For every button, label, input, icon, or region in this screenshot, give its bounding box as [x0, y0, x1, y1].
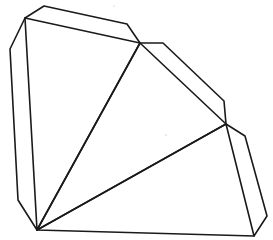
flap-lower-right — [226, 124, 267, 236]
scan-speck — [165, 134, 167, 136]
flap-top — [25, 6, 140, 43]
flap-left — [10, 18, 37, 230]
face-3 — [37, 124, 254, 236]
pyramid-net-diagram — [0, 0, 273, 240]
face-1 — [25, 18, 140, 230]
scan-speck — [113, 5, 114, 6]
face-2 — [37, 43, 226, 230]
